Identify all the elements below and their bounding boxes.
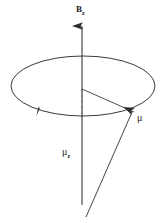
moment-z-subscript: z — [67, 153, 70, 159]
precession-ellipse — [11, 56, 155, 116]
axis-field-label: Bz — [76, 5, 85, 16]
precession-direction-arrow-icon — [36, 106, 41, 116]
axis-field-subscript: z — [82, 10, 85, 16]
mu-vector-line — [86, 111, 133, 217]
moment-label: μ — [137, 113, 142, 123]
center-to-rim-radius — [82, 89, 134, 112]
moment-symbol: μ — [137, 112, 142, 123]
precession-diagram: Bz μ μz — [0, 0, 163, 223]
moment-z-label: μz — [62, 147, 70, 159]
